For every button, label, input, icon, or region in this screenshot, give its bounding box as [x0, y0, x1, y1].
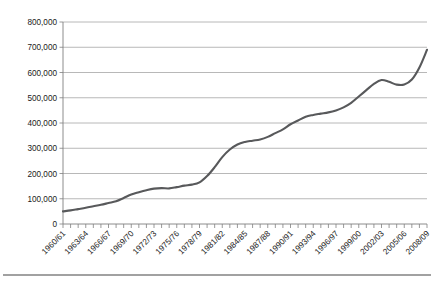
- y-axis-tick-label: 300,000: [27, 144, 57, 153]
- x-axis-tick-label: 1981/82: [199, 229, 227, 257]
- chart-figure: 800,000700,000600,000500,000400,000300,0…: [0, 0, 434, 289]
- y-axis-tick-label: 500,000: [27, 94, 57, 103]
- y-axis-tick-label: 100,000: [27, 195, 57, 204]
- y-axis-tick-label: 600,000: [27, 69, 57, 78]
- x-axis-tick-label: 1990/91: [268, 229, 296, 257]
- data-series-line: [63, 50, 427, 212]
- y-axis-tick-label: 800,000: [27, 18, 57, 27]
- x-axis-tick-label: 1996/97: [313, 229, 341, 257]
- gridlines-group: [60, 22, 428, 224]
- x-axis-tick-labels: 1960/611963/641966/671969/701972/731975/…: [40, 229, 432, 257]
- x-axis-tick-label: 1993/94: [290, 229, 318, 257]
- x-axis-tick-label: 1963/64: [63, 229, 91, 257]
- x-axis-tick-label: 1999/00: [336, 229, 364, 257]
- x-axis-tick-label: 1987/88: [245, 229, 273, 257]
- y-axis-tick-labels: 800,000700,000600,000500,000400,000300,0…: [27, 18, 57, 229]
- x-axis-ticks-group: [63, 224, 427, 228]
- x-axis-tick-label: 1972/73: [131, 229, 159, 257]
- y-axis-tick-label: 0: [52, 220, 57, 229]
- x-axis-tick-label: 1975/76: [154, 229, 182, 257]
- x-axis-tick-label: 2002/03: [359, 229, 387, 257]
- x-axis-tick-label: 2005/06: [381, 229, 409, 257]
- x-axis-tick-label: 1969/70: [108, 229, 136, 257]
- x-axis-tick-label: 1960/61: [40, 229, 68, 257]
- y-axis-tick-label: 700,000: [27, 43, 57, 52]
- x-axis-tick-label: 1966/67: [86, 229, 114, 257]
- x-axis-tick-label: 1978/79: [177, 229, 205, 257]
- y-axis-tick-label: 200,000: [27, 170, 57, 179]
- x-axis-tick-label: 1984/85: [222, 229, 250, 257]
- line-chart: 800,000700,000600,000500,000400,000300,0…: [0, 0, 434, 289]
- y-axis-tick-label: 400,000: [27, 119, 57, 128]
- x-axis-tick-label: 2008/09: [404, 229, 432, 257]
